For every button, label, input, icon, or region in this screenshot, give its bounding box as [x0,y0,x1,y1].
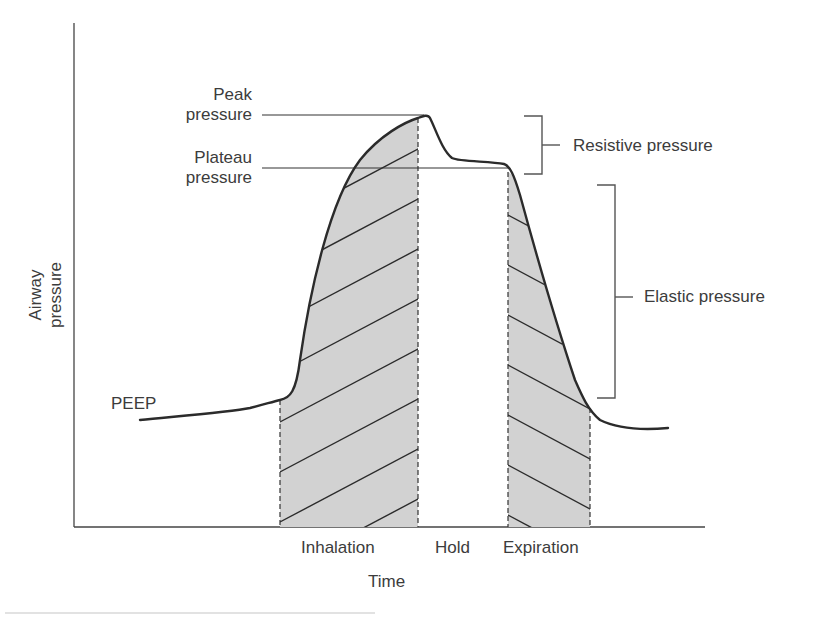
plateau-label-line2: pressure [160,168,252,188]
resistive-pressure-label: Resistive pressure [573,136,713,156]
phase-expiration-label: Expiration [503,538,579,558]
phase-inhalation-label: Inhalation [301,538,375,558]
peak-label-line1: Peak [160,85,252,105]
phase-hold-label: Hold [435,538,470,558]
expiration-region [508,165,592,560]
peep-label: PEEP [111,394,156,414]
peak-label-line2: pressure [160,105,252,125]
pressure-time-diagram [0,0,833,617]
plateau-label-line1: Plateau [160,148,252,168]
inhalation-region [280,98,420,572]
elastic-pressure-bracket [597,185,633,398]
footer-rule [5,612,375,614]
resistive-pressure-bracket [524,116,560,174]
x-axis-label: Time [368,572,405,592]
elastic-pressure-label: Elastic pressure [644,287,765,307]
y-axis-label: Airway pressure [26,235,66,355]
plateau-pressure-label: Plateau pressure [160,148,252,188]
peak-pressure-label: Peak pressure [160,85,252,125]
